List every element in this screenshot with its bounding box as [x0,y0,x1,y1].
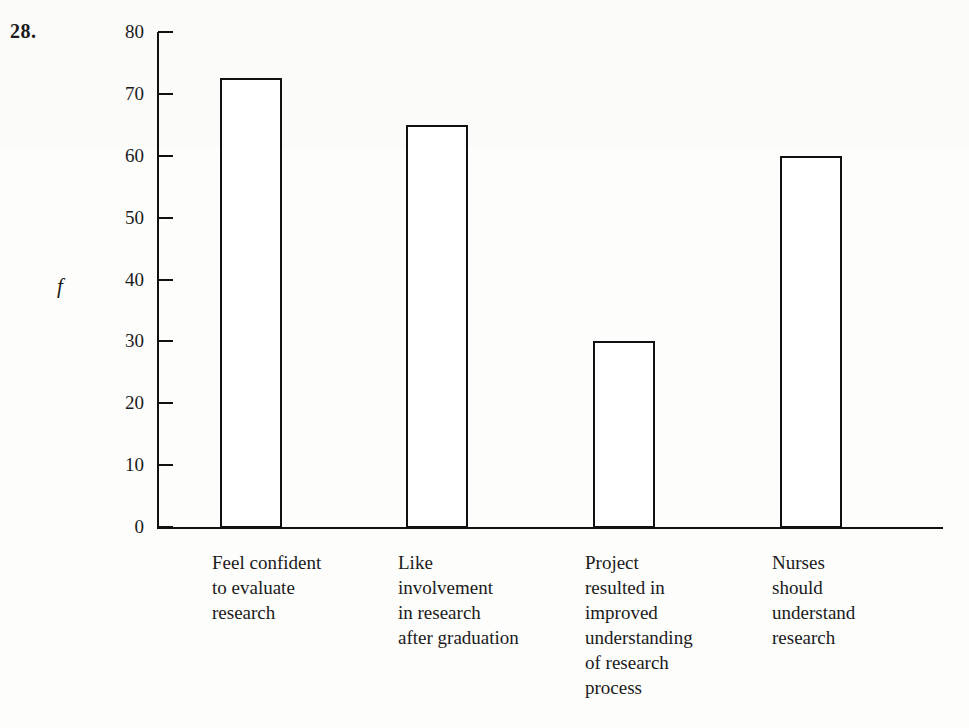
y-axis-tick-label: 10 [100,455,144,474]
y-axis-tick-label: 40 [100,270,144,289]
bar-chart: f 01020304050607080 Feel confident to ev… [0,0,969,728]
y-axis-tick-mark [158,279,173,281]
y-axis-tick-label: 50 [100,208,144,227]
category-label: Feel confident to evaluate research [212,550,321,625]
category-label: Nurses should understand research [772,550,855,650]
bar [593,341,655,528]
bar [406,125,468,528]
category-label: Project resulted in improved understandi… [585,550,693,700]
y-axis-tick-mark [158,464,173,466]
y-axis-label: f [57,274,63,299]
y-axis-tick-mark [158,526,173,528]
bar [220,78,282,528]
y-axis-tick-mark [158,340,173,342]
y-axis-tick-mark [158,217,173,219]
y-axis-tick-mark [158,93,173,95]
y-axis-tick-mark [158,31,173,33]
y-axis-tick-label: 20 [100,393,144,412]
y-axis-tick-label: 30 [100,331,144,350]
bar [780,156,842,528]
y-axis-tick-mark [158,402,173,404]
y-axis-tick-mark [158,155,173,157]
y-axis-tick-label: 70 [100,84,144,103]
y-axis-tick-label: 0 [100,517,144,536]
y-axis-tick-label: 80 [100,22,144,41]
category-label: Like involvement in research after gradu… [398,550,519,650]
y-axis-tick-label: 60 [100,146,144,165]
